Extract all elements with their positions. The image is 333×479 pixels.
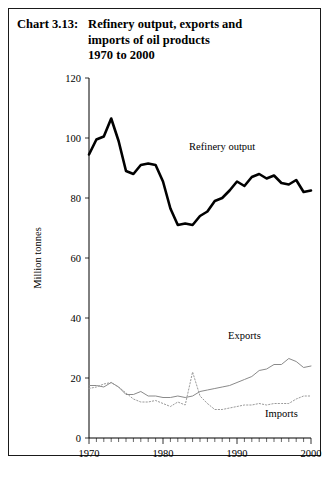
y-tick-label: 80 (71, 193, 82, 204)
chart-frame: Chart 3.13: Refinery output, exports and… (8, 8, 321, 456)
y-tick-label: 20 (71, 373, 82, 384)
y-tick-label: 120 (65, 73, 81, 84)
series-line-refinery-output (89, 119, 311, 226)
series-label-exports: Exports (228, 330, 261, 341)
y-tick-label: 100 (65, 133, 81, 144)
y-tick-label: 40 (71, 313, 82, 324)
y-axis-title: Million tonnes (32, 227, 43, 289)
series-line-exports (89, 359, 311, 398)
plot-area: 0204060801001201970198019902000Million t… (9, 9, 322, 457)
line-chart-svg: 0204060801001201970198019902000Million t… (9, 9, 322, 457)
x-tick-label: 1990 (227, 448, 248, 457)
x-tick-label: 1980 (153, 448, 174, 457)
x-tick-label: 2000 (301, 448, 322, 457)
series-label-refinery-output: Refinery output (189, 141, 255, 152)
y-tick-label: 60 (71, 253, 82, 264)
y-tick-label: 0 (76, 433, 81, 444)
series-label-imports: Imports (265, 408, 298, 419)
x-tick-label: 1970 (79, 448, 100, 457)
